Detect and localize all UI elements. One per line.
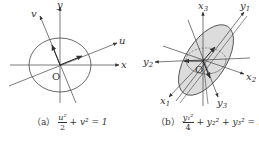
- v-unit-vector: [52, 45, 60, 65]
- caption-a-fraction: u² 2: [58, 113, 66, 132]
- label-x1: x1: [160, 95, 170, 108]
- figure-a: x y u v O: [9, 0, 127, 103]
- label-x2: x2: [246, 71, 257, 84]
- caption-a-num: u²: [58, 113, 66, 123]
- label-u: u: [119, 35, 125, 46]
- caption-b-fraction: y₁² 4: [183, 113, 194, 132]
- label-origin-a: O: [52, 71, 60, 82]
- caption-b-rest: + y₂² + y₃² = 1: [196, 117, 259, 127]
- caption-a-tag: （a）: [32, 117, 55, 127]
- u-unit-vector: [60, 56, 82, 65]
- label-v: v: [31, 8, 37, 19]
- label-x3: x3: [198, 0, 209, 13]
- u-axis: [9, 43, 117, 86]
- label-y2: y2: [142, 56, 154, 69]
- caption-b: （b） y₁² 4 + y₂² + y₃² = 1: [156, 113, 259, 132]
- label-y3: y3: [216, 97, 228, 110]
- caption-b-tag: （b）: [156, 117, 180, 127]
- caption-a-den: 2: [60, 123, 65, 132]
- label-origin-b: O: [195, 64, 203, 75]
- label-y1: y1: [239, 0, 250, 13]
- caption-a: （a） u² 2 + v² = 1: [32, 113, 108, 132]
- label-y: y: [56, 0, 63, 10]
- caption-b-num: y₁²: [183, 113, 194, 123]
- label-x: x: [121, 59, 127, 70]
- caption-a-rest: + v² = 1: [69, 117, 107, 127]
- figure-b: x3 y1 y2 x2 x1 y3 O: [142, 0, 257, 110]
- caption-b-den: 4: [186, 123, 191, 132]
